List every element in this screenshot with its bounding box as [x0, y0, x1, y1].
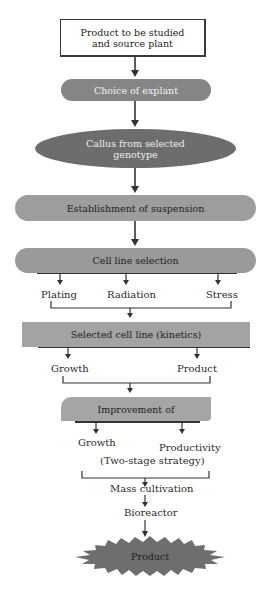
selected-cell-line-label: Selected cell line (kinetics)	[71, 329, 202, 340]
bioreactor-label: Bioreactor	[124, 507, 178, 519]
improvement-box: Improvement of	[61, 397, 211, 421]
callus-label-line1: Callus from selected	[86, 138, 185, 149]
explant-label: Choice of explant	[94, 85, 178, 96]
radiation-label: Radiation	[107, 289, 156, 301]
selected-cell-line-box: Selected cell line (kinetics)	[22, 322, 250, 347]
callus-ellipse: Callus from selected genotype	[35, 129, 236, 168]
source-plant-box: Product to be studied and source plant	[60, 19, 206, 57]
cell-line-selection-label: Cell line selection	[93, 255, 179, 266]
callus-label-line2: genotype	[113, 149, 157, 160]
kinetics-growth-label: Growth	[51, 363, 89, 375]
improvement-growth-label: Growth	[78, 437, 116, 449]
kinetics-product-label: Product	[177, 363, 217, 375]
improvement-productivity-label: Productivity	[159, 442, 221, 454]
suspension-label: Establishment of suspension	[67, 203, 205, 214]
final-product-label: Product	[131, 551, 169, 562]
establishment-of-suspension-pill: Establishment of suspension	[15, 195, 256, 221]
source-label-line1: Product to be studied	[81, 27, 185, 38]
final-product-label-box: Product	[75, 536, 225, 576]
two-stage-strategy-label: (Two-stage strategy)	[100, 455, 205, 467]
source-label-line2: and source plant	[92, 38, 173, 49]
plating-label: Plating	[41, 289, 77, 301]
choice-of-explant-pill: Choice of explant	[61, 79, 211, 101]
cell-line-selection-pill: Cell line selection	[15, 248, 256, 273]
stress-label: Stress	[206, 289, 238, 301]
mass-cultivation-label: Mass cultivation	[110, 483, 193, 495]
improvement-label: Improvement of	[98, 404, 175, 415]
